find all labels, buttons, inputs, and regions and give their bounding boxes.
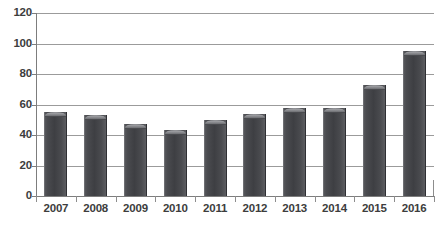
bar-chart: 020406080100120 200720082009201020112012… <box>0 0 446 227</box>
bar-cap <box>165 130 186 135</box>
bar <box>44 112 67 196</box>
bar-cap <box>45 112 66 117</box>
bar-cap <box>324 108 345 113</box>
y-axis-tick-label: 0 <box>0 190 32 202</box>
x-axis-tick <box>36 196 37 202</box>
x-axis-tick <box>434 196 435 202</box>
x-axis-tick-label: 2011 <box>193 203 237 215</box>
bar-cap <box>205 120 226 125</box>
plot-area <box>36 13 434 196</box>
y-axis-tick-label: 80 <box>0 68 32 80</box>
bar-cap <box>404 51 425 56</box>
x-axis-tick-label: 2016 <box>392 203 436 215</box>
x-axis-tick <box>315 196 316 202</box>
x-axis-tick-label: 2010 <box>153 203 197 215</box>
x-axis-tick <box>155 196 156 202</box>
x-axis-tick-label: 2007 <box>34 203 78 215</box>
y-axis-tick-label: 40 <box>0 129 32 141</box>
bars <box>36 13 434 196</box>
bar-cap <box>284 108 305 113</box>
x-axis-tick-label: 2009 <box>114 203 158 215</box>
x-axis-tick-label: 2008 <box>74 203 118 215</box>
bar <box>243 114 266 196</box>
bar <box>323 108 346 196</box>
x-axis-tick-label: 2014 <box>313 203 357 215</box>
bar-cap <box>244 114 265 119</box>
x-axis-tick <box>76 196 77 202</box>
bar <box>363 85 386 196</box>
x-axis-tick <box>394 196 395 202</box>
y-axis-tick-label: 60 <box>0 99 32 111</box>
y-axis-tick-label: 20 <box>0 160 32 172</box>
bar-cap <box>125 124 146 129</box>
x-axis-tick <box>235 196 236 202</box>
x-axis-tick <box>354 196 355 202</box>
y-axis-tick-label: 100 <box>0 38 32 50</box>
bar <box>204 120 227 196</box>
x-axis-tick <box>195 196 196 202</box>
y-axis-tick-label: 120 <box>0 7 32 19</box>
x-axis-tick <box>275 196 276 202</box>
bar-cap <box>364 85 385 90</box>
bar-cap <box>85 115 106 120</box>
bar <box>124 124 147 196</box>
x-axis-tick-label: 2013 <box>273 203 317 215</box>
bar <box>84 115 107 196</box>
bar <box>164 130 187 196</box>
x-axis-tick <box>116 196 117 202</box>
x-axis-tick-label: 2012 <box>233 203 277 215</box>
bar <box>403 51 426 196</box>
bar <box>283 108 306 196</box>
x-axis-tick-label: 2015 <box>352 203 396 215</box>
